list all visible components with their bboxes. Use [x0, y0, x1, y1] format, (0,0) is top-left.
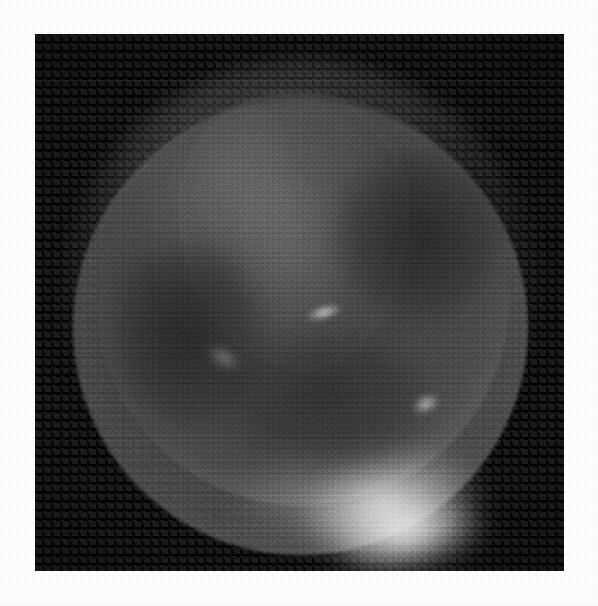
upper-right-shadow	[335, 154, 505, 314]
mid-shadow	[225, 334, 425, 464]
micrograph-image	[35, 34, 564, 571]
page-canvas	[0, 0, 598, 606]
